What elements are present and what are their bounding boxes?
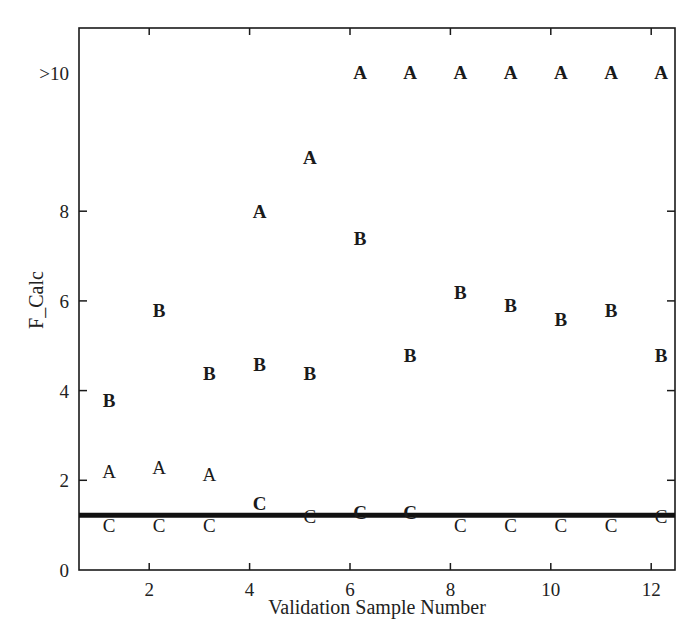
marker-b: B xyxy=(454,282,467,303)
y-tick-label: 2 xyxy=(60,470,70,491)
marker-b: B xyxy=(103,390,116,411)
marker-a: A xyxy=(454,62,468,83)
marker-b: B xyxy=(504,295,517,316)
marker-c: C xyxy=(353,502,367,523)
marker-b: B xyxy=(303,363,316,384)
marker-a: A xyxy=(504,62,518,83)
marker-a: A xyxy=(152,457,166,478)
marker-c: C xyxy=(203,515,216,536)
marker-c: C xyxy=(303,506,316,527)
marker-a: A xyxy=(604,62,618,83)
y-tick-label: 0 xyxy=(60,560,70,581)
plot-border xyxy=(79,28,675,570)
marker-b: B xyxy=(354,228,367,249)
y-axis-title: F_Calc xyxy=(25,271,47,329)
x-tick-label: 12 xyxy=(642,579,661,600)
marker-c: C xyxy=(403,502,417,523)
marker-b: B xyxy=(153,300,166,321)
marker-b: B xyxy=(203,363,216,384)
marker-b: B xyxy=(605,300,618,321)
marker-b: B xyxy=(404,345,417,366)
marker-c: C xyxy=(554,515,567,536)
marker-c: C xyxy=(605,515,618,536)
marker-c: C xyxy=(153,515,166,536)
x-tick-label: 2 xyxy=(144,579,154,600)
marker-a: A xyxy=(654,62,668,83)
marker-a: A xyxy=(303,147,317,168)
marker-a: A xyxy=(253,201,267,222)
plot-frame xyxy=(79,28,675,570)
marker-a: A xyxy=(102,461,116,482)
y-tick-label: 6 xyxy=(60,291,70,312)
marker-c: C xyxy=(655,506,668,527)
marker-c: C xyxy=(103,515,116,536)
y-tick-label: 8 xyxy=(60,201,70,222)
marker-b: B xyxy=(655,345,668,366)
marker-a: A xyxy=(203,464,217,485)
marker-c: C xyxy=(454,515,467,536)
marker-b: B xyxy=(554,309,567,330)
marker-a: A xyxy=(403,62,417,83)
x-tick-label: 10 xyxy=(541,579,560,600)
y-tick-label: 4 xyxy=(60,381,70,402)
marker-c: C xyxy=(253,493,267,514)
x-tick-label: 4 xyxy=(245,579,255,600)
x-axis-title: Validation Sample Number xyxy=(268,596,486,619)
data-markers: AAAAAAAAAAAABBBBBBBBBBBBCCCCCCCCCCCC xyxy=(102,62,668,536)
scatter-chart: 02468>10 24681012 AAAAAAAAAAAABBBBBBBBBB… xyxy=(0,0,699,642)
marker-a: A xyxy=(353,62,367,83)
marker-b: B xyxy=(253,354,266,375)
marker-a: A xyxy=(554,62,568,83)
marker-c: C xyxy=(504,515,517,536)
y-tick-label: >10 xyxy=(39,63,69,84)
